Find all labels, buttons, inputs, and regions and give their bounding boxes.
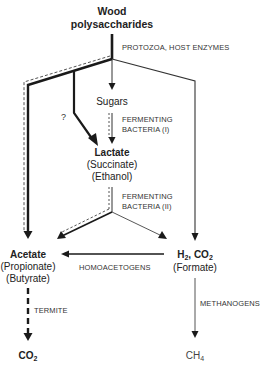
arrowhead-h2co2-top [192, 233, 199, 241]
node-acetate: Acetate (Propionate) (Butyrate) [0, 250, 55, 284]
ch4-symbol: CH [186, 350, 200, 361]
arrowhead-ch4 [192, 331, 199, 338]
arrow-question-to-lactate [74, 71, 93, 140]
lactate-main: Lactate [94, 147, 129, 158]
fermenting1-line1: FERMENTING [122, 115, 173, 124]
h2co2-alt1: (Formate) [173, 263, 217, 273]
arrow-lactate-to-h2co2 [112, 212, 162, 236]
arrowhead-sugars [109, 83, 116, 90]
fermenting2-line1: FERMENTING [122, 192, 173, 201]
fermenting2-line2: BACTERIA (II) [122, 203, 173, 211]
arrowhead-lactate-top [109, 137, 116, 144]
label-termite: TERMITE [34, 307, 68, 315]
node-wood-polysaccharides: Wood polysaccharides [71, 6, 153, 29]
arrow-wood-to-acetate [28, 59, 112, 232]
fermenting1-line2: BACTERIA (I) [122, 126, 173, 134]
node-lactate: Lactate (Succinate) (Ethanol) [87, 148, 138, 182]
lactate-alt1: (Succinate) [87, 160, 138, 170]
h2co2-main: H2, CO2 [177, 249, 213, 260]
node-h2-co2: H2, CO2 (Formate) [173, 250, 217, 273]
wood-line1: Wood [98, 5, 127, 17]
co2-symbol: CO [19, 350, 34, 361]
label-methanogens: METHANOGENS [200, 300, 260, 308]
sugars-label: Sugars [96, 96, 128, 107]
arrow-lactate-to-acetate [62, 212, 112, 236]
label-fermenting-bacteria-2: FERMENTING BACTERIA (II) [122, 193, 173, 210]
label-protozoa-host-enzymes: PROTOZOA, HOST ENZYMES [122, 44, 229, 52]
label-fermenting-bacteria-1: FERMENTING BACTERIA (I) [122, 116, 173, 133]
co-symbol: , CO [188, 249, 209, 260]
label-question-mark: ? [61, 113, 66, 122]
node-co2: CO2 [19, 351, 38, 362]
arrowhead-co2 [24, 333, 33, 341]
dashed-lactate-to-acetate [60, 209, 109, 233]
arrowhead-acetate-top [24, 231, 33, 239]
acetate-alt2: (Butyrate) [0, 274, 55, 284]
label-homoacetogens: HOMOACETOGENS [79, 264, 151, 272]
co-subscript: 2 [209, 254, 213, 261]
acetate-main: Acetate [10, 249, 46, 260]
co2-subscript: 2 [34, 355, 38, 362]
node-sugars: Sugars [96, 97, 128, 107]
ch4-subscript: 4 [200, 355, 204, 362]
node-ch4: CH4 [186, 351, 204, 362]
acetate-alt1: (Propionate) [0, 262, 55, 272]
arrowhead-homoacetogens [61, 251, 69, 258]
lactate-alt2: (Ethanol) [87, 172, 138, 182]
wood-line2: polysaccharides [71, 19, 153, 30]
